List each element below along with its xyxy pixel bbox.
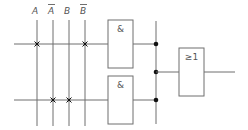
junction-dot-3 <box>154 98 159 103</box>
input-label-b: B <box>64 6 70 16</box>
input-label-a: A <box>31 6 38 16</box>
input-label-b-not: B <box>80 6 86 16</box>
logic-diagram: A A B B & & <box>0 0 248 130</box>
or-gate-symbol: ≥1 <box>185 52 198 62</box>
and-gate-2-symbol: & <box>117 80 124 90</box>
junction-dot-1 <box>154 42 159 47</box>
input-label-a-not: A <box>47 6 54 16</box>
and-gate-1-symbol: & <box>117 24 124 34</box>
